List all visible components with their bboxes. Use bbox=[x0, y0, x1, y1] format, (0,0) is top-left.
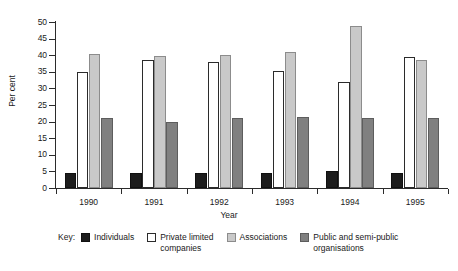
bar bbox=[142, 60, 154, 188]
y-tick-mark bbox=[49, 122, 55, 123]
bar bbox=[208, 62, 220, 188]
y-tick-mark bbox=[49, 188, 55, 189]
x-tick-label: 1990 bbox=[57, 197, 121, 207]
bar bbox=[391, 173, 403, 188]
x-tick-label: 1992 bbox=[187, 197, 251, 207]
y-tick-mark bbox=[49, 105, 55, 106]
bar bbox=[261, 173, 273, 188]
bar bbox=[285, 52, 297, 188]
x-tick-mark bbox=[56, 189, 57, 194]
bar bbox=[428, 118, 440, 188]
legend-swatch-private bbox=[147, 233, 156, 242]
bar-group-1990 bbox=[56, 22, 121, 188]
x-tick-label: 1995 bbox=[383, 197, 447, 207]
x-tick-mark bbox=[317, 189, 318, 194]
bar-group-1991 bbox=[121, 22, 186, 188]
legend-label: Individuals bbox=[94, 232, 134, 243]
legend-swatch-individuals bbox=[81, 233, 90, 242]
plot-area bbox=[56, 22, 448, 188]
bar bbox=[154, 56, 166, 188]
x-tick-label: 1991 bbox=[122, 197, 186, 207]
legend-label: Private limited companies bbox=[160, 232, 213, 254]
y-tick-label: 25 bbox=[3, 101, 47, 110]
y-tick-mark bbox=[49, 155, 55, 156]
y-tick-label: 40 bbox=[3, 51, 47, 60]
bar bbox=[77, 72, 89, 188]
x-tick-mark bbox=[187, 189, 188, 194]
bar bbox=[273, 71, 285, 188]
y-axis-ticks: 05101520253035404550 bbox=[0, 0, 47, 189]
x-tick-mark bbox=[383, 189, 384, 194]
legend-key-label: Key: bbox=[58, 232, 75, 243]
bar bbox=[89, 54, 101, 188]
legend: Key: IndividualsPrivate limited companie… bbox=[0, 232, 458, 270]
y-tick-label: 10 bbox=[3, 150, 47, 159]
y-tick-label: 20 bbox=[3, 117, 47, 126]
bar bbox=[338, 82, 350, 188]
legend-item: Private limited companies bbox=[147, 232, 213, 254]
legend-items: Key: IndividualsPrivate limited companie… bbox=[58, 232, 411, 254]
bar bbox=[297, 117, 309, 188]
x-tick-label: 1993 bbox=[253, 197, 317, 207]
legend-swatch-associations bbox=[227, 233, 236, 242]
x-tick-mark bbox=[121, 189, 122, 194]
legend-label: Public and semi-public organisations bbox=[313, 232, 398, 254]
bar bbox=[220, 55, 232, 188]
bar bbox=[101, 118, 113, 188]
y-tick-label: 45 bbox=[3, 34, 47, 43]
y-tick-mark bbox=[49, 138, 55, 139]
x-tick-mark bbox=[448, 189, 449, 194]
bar-group-1994 bbox=[317, 22, 382, 188]
y-tick-mark bbox=[49, 171, 55, 172]
legend-label: Associations bbox=[240, 232, 288, 243]
bar bbox=[362, 118, 374, 188]
x-tick-label: 1994 bbox=[318, 197, 382, 207]
y-tick-label: 50 bbox=[3, 18, 47, 27]
bar bbox=[130, 173, 142, 188]
y-tick-mark bbox=[49, 55, 55, 56]
bar bbox=[404, 57, 416, 188]
y-tick-mark bbox=[49, 39, 55, 40]
bar-group-1993 bbox=[252, 22, 317, 188]
legend-item: Public and semi-public organisations bbox=[300, 232, 398, 254]
legend-item: Individuals bbox=[81, 232, 134, 243]
bar bbox=[232, 118, 244, 188]
bar bbox=[350, 26, 362, 188]
y-tick-label: 5 bbox=[3, 167, 47, 176]
legend-swatch-public bbox=[300, 233, 309, 242]
y-tick-label: 35 bbox=[3, 67, 47, 76]
bar bbox=[416, 60, 428, 188]
bar bbox=[166, 122, 178, 188]
bar-group-1995 bbox=[383, 22, 448, 188]
y-tick-label: 30 bbox=[3, 84, 47, 93]
y-tick-mark bbox=[49, 22, 55, 23]
y-tick-mark bbox=[49, 72, 55, 73]
y-tick-label: 0 bbox=[3, 184, 47, 193]
x-axis-title: Year bbox=[0, 210, 458, 220]
bar-group-1992 bbox=[187, 22, 252, 188]
bar-chart: Per cent 05101520253035404550 Year Key: … bbox=[0, 0, 458, 271]
bar bbox=[326, 171, 338, 188]
y-tick-label: 15 bbox=[3, 134, 47, 143]
y-tick-mark bbox=[49, 88, 55, 89]
bar bbox=[65, 173, 77, 188]
legend-item: Associations bbox=[227, 232, 288, 243]
bar bbox=[195, 173, 207, 188]
x-tick-mark bbox=[252, 189, 253, 194]
